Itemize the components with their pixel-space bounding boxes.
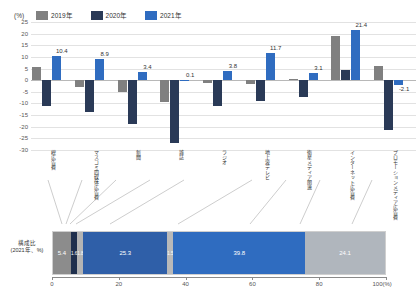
composition-row-label: 構成比 (2021年、%) — [6, 240, 48, 255]
bar-2021年 — [309, 73, 318, 80]
data-label-2021: 0.1 — [186, 72, 194, 78]
x-axis-line — [52, 277, 386, 278]
leader-lines — [0, 178, 420, 232]
x-tick-label: 40 — [182, 281, 189, 287]
bar-2021年 — [351, 30, 360, 80]
y-tick-label: -30 — [19, 147, 28, 153]
bar-2021年 — [52, 56, 61, 80]
y-tick-label: -25 — [19, 135, 28, 141]
composition-label-line2: (2021年、%) — [6, 247, 48, 254]
y-tick-label: -5 — [23, 89, 28, 95]
bar-group: 10.4 — [31, 22, 74, 150]
y-tick-label: 25 — [21, 19, 28, 25]
bar-2019年 — [331, 36, 340, 80]
stack-segment-3: 25.3 — [83, 232, 167, 274]
stack-segment-value: 25.3 — [119, 250, 131, 256]
data-label-2021: 10.4 — [56, 48, 68, 54]
bar-2020年 — [213, 80, 222, 106]
x-tick-label: 80 — [316, 281, 323, 287]
y-tick-label: 10 — [21, 54, 28, 60]
legend-swatch-2021 — [145, 11, 157, 20]
y-tick-label: 0 — [25, 77, 28, 83]
stack-segment-5: 39.8 — [173, 232, 305, 274]
stack-segment-0: 5.4 — [53, 232, 71, 274]
bar-2020年 — [384, 80, 393, 129]
plot-area: 10.48.93.40.13.811.73.121.4-2.1 — [31, 22, 416, 150]
stack-segment-6: 24.1 — [305, 232, 385, 274]
y-tick-label: 5 — [25, 66, 28, 72]
data-label-2021: 3.8 — [229, 63, 237, 69]
data-label-2021: 11.7 — [270, 45, 281, 51]
x-tick — [186, 277, 187, 280]
legend-swatch-2020 — [91, 11, 103, 20]
bar-2019年 — [289, 79, 298, 80]
legend-label-2020: 2020年 — [106, 10, 127, 20]
legend-item-2019: 2019年 — [36, 10, 72, 20]
bar-2021年 — [138, 72, 147, 80]
legend-item-2021: 2021年 — [145, 10, 181, 20]
bar-group: 8.9 — [74, 22, 117, 150]
x-tick — [386, 277, 387, 280]
bar-2020年 — [341, 70, 350, 80]
y-tick-label: 20 — [21, 31, 28, 37]
bar-2020年 — [42, 80, 51, 106]
bar-2019年 — [374, 66, 383, 80]
bar-group: -2.1 — [373, 22, 416, 150]
bar-2021年 — [223, 71, 232, 80]
legend-swatch-2019 — [36, 11, 48, 20]
stack-segment-value: 39.8 — [233, 250, 245, 256]
data-label-2021: 8.9 — [100, 51, 108, 57]
bar-group: 3.4 — [117, 22, 160, 150]
x-tick — [52, 277, 53, 280]
data-label-2021: 3.4 — [143, 64, 151, 70]
data-label-2021: -2.1 — [399, 86, 409, 92]
data-label-2021: 3.1 — [314, 65, 322, 71]
bar-2020年 — [256, 80, 265, 101]
stacked-bar-track: 5.41.61.825.31.539.824.1 — [52, 231, 386, 275]
composition-x-axis: 020406080100(%) — [52, 277, 386, 295]
composition-stacked-bar: 構成比 (2021年、%) 5.41.61.825.31.539.824.1 0… — [0, 228, 420, 301]
bar-2019年 — [118, 80, 127, 92]
legend-label-2021: 2021年 — [160, 10, 181, 20]
bar-2021年 — [394, 80, 403, 85]
x-tick-label: 100(%) — [372, 281, 391, 287]
bar-2021年 — [266, 53, 275, 80]
bar-group: 21.4 — [330, 22, 373, 150]
stack-segment-value: 5.4 — [58, 250, 66, 256]
bar-2019年 — [160, 80, 169, 101]
bar-2019年 — [32, 67, 41, 80]
x-tick-label: 20 — [115, 281, 122, 287]
y-axis: 2520151050-5-10-15-20-25-30 — [0, 22, 30, 150]
bar-group: 0.1 — [159, 22, 202, 150]
bar-2021年 — [95, 59, 104, 80]
legend-unit-label: (%) — [14, 12, 24, 19]
y-tick-label: 15 — [21, 42, 28, 48]
legend-item-2020: 2020年 — [91, 10, 127, 20]
bar-group: 3.1 — [288, 22, 331, 150]
x-tick-label: 60 — [249, 281, 256, 287]
bar-group: 11.7 — [245, 22, 288, 150]
data-label-2021: 21.4 — [355, 22, 367, 28]
x-tick — [319, 277, 320, 280]
bar-2019年 — [246, 80, 255, 83]
legend-label-2019: 2019年 — [51, 10, 72, 20]
y-tick-label: -10 — [19, 100, 28, 106]
y-tick-label: -15 — [19, 112, 28, 118]
bar-2019年 — [203, 80, 212, 83]
x-tick-label: 0 — [50, 281, 53, 287]
bar-2021年 — [180, 80, 189, 81]
stack-segment-value: 24.1 — [339, 250, 351, 256]
growth-rate-bar-chart: 2520151050-5-10-15-20-25-30 10.48.93.40.… — [0, 22, 420, 150]
bar-2019年 — [75, 80, 84, 87]
bar-2020年 — [299, 80, 308, 97]
bar-2020年 — [128, 80, 137, 124]
bar-group: 3.8 — [202, 22, 245, 150]
x-tick — [252, 277, 253, 280]
bar-groups: 10.48.93.40.13.811.73.121.4-2.1 — [31, 22, 416, 150]
x-tick — [119, 277, 120, 280]
bar-2020年 — [170, 80, 179, 143]
y-tick-label: -20 — [19, 124, 28, 130]
bar-2020年 — [85, 80, 94, 112]
